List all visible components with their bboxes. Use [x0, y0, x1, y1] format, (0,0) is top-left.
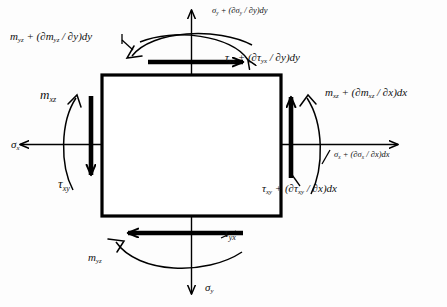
label-top-moment: myz + (∂myz / ∂y)dy	[10, 31, 92, 44]
label-bottom-moment: myz	[88, 252, 102, 265]
label-right-normal-stress: σx + (∂σx / ∂x)dx	[334, 150, 390, 160]
leader-right-normal	[322, 150, 330, 164]
moment-arc-bottom	[116, 242, 242, 268]
label-bottom-normal-stress: σy	[205, 282, 213, 295]
label-left-shear-stress: τxy	[58, 177, 70, 193]
leader-top-moment	[122, 40, 133, 50]
label-left-normal-stress: σx	[11, 139, 19, 152]
moment-arc-bottom-head	[108, 239, 124, 252]
moment-arc-right	[307, 98, 320, 194]
label-right-moment: mxz + (∂mxz / ∂x)dx	[325, 87, 407, 100]
label-bottom-shear-stress: τyx	[224, 226, 236, 242]
label-top-shear-stress: τyx + (∂τyx / ∂y)dy	[225, 52, 300, 65]
stress-element-diagram: σy + (∂σy / ∂y)dy τyx + (∂τyx / ∂y)dy my…	[0, 0, 447, 307]
element-square	[102, 75, 281, 216]
label-top-normal-stress: σy + (∂σy / ∂y)dy	[212, 6, 268, 16]
label-right-shear-stress: τxy + (∂τxy / ∂x)dx	[262, 183, 337, 196]
label-left-moment: mxz	[40, 88, 56, 104]
